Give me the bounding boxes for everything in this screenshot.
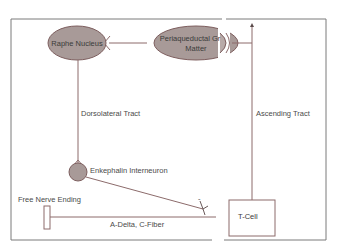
inhibitory-link bbox=[86, 177, 203, 209]
free-nerve-ending-label: Free Nerve Ending bbox=[18, 195, 81, 204]
pain-pathway-diagram: Raphe Nucleus Periaqueductal Gr Matter A… bbox=[0, 0, 338, 251]
pag-label-line1: Periaqueductal Gr bbox=[160, 34, 221, 43]
free-nerve-ending-node[interactable] bbox=[44, 206, 50, 229]
pag-label-line2: Matter bbox=[185, 44, 207, 53]
enkephalin-interneuron-label: Enkephalin Interneuron bbox=[90, 166, 168, 175]
afferent-fiber-label: A-Delta, C-Fiber bbox=[110, 220, 165, 229]
dorsolateral-tract-label: Dorsolateral Tract bbox=[81, 109, 141, 118]
raphe-nucleus-label: Raphe Nucleus bbox=[51, 39, 103, 48]
enkephalin-interneuron-node[interactable] bbox=[69, 163, 87, 181]
ascending-arrow-icon bbox=[250, 23, 254, 27]
ascending-tract-label: Ascending Tract bbox=[256, 109, 311, 118]
t-cell-label: T-Cell bbox=[238, 212, 258, 221]
